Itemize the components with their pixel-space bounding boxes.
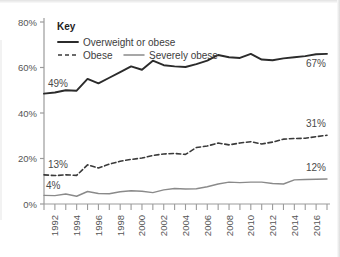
x-tick-label: 2016 xyxy=(311,215,322,236)
x-axis: 1992199419961998200020022004200620082010… xyxy=(44,204,330,236)
y-tick-label: 40% xyxy=(18,108,38,119)
chart-root: 0%20%40%60%80% 1992199419961998200020022… xyxy=(0,0,340,257)
label-overweight-end: 67% xyxy=(306,58,326,69)
plot-area: 0%20%40%60%80% 1992199419961998200020022… xyxy=(0,0,340,257)
y-tick-label: 20% xyxy=(18,153,38,164)
label-obese-end: 31% xyxy=(306,118,326,129)
legend-label-overweight: Overweight or obese xyxy=(83,37,176,48)
legend-label-severely: Severely obese xyxy=(149,50,218,61)
label-severely-start: 4% xyxy=(46,180,61,191)
y-tick-label: 60% xyxy=(18,62,38,73)
y-axis: 0%20%40%60%80% xyxy=(18,17,44,210)
x-tick-label: 2000 xyxy=(136,215,147,236)
series-line-severely-obese xyxy=(44,179,327,196)
x-tick-label: 1996 xyxy=(93,215,104,236)
data-labels: 49%67%13%31%4%12% xyxy=(46,58,326,192)
legend-title: Key xyxy=(57,21,76,32)
x-tick-label: 2004 xyxy=(180,215,191,236)
line-chart-svg: 0%20%40%60%80% 1992199419961998200020022… xyxy=(0,0,340,257)
label-obese-start: 13% xyxy=(48,159,68,170)
x-tick-label: 2006 xyxy=(202,215,213,236)
x-tick-label: 1998 xyxy=(115,215,126,236)
legend: KeyOverweight or obeseObeseSeverely obes… xyxy=(57,21,218,61)
series-lines xyxy=(44,54,327,196)
x-tick-label: 2008 xyxy=(224,215,235,236)
y-tick-label: 0% xyxy=(23,199,37,210)
x-tick-label: 2012 xyxy=(267,215,278,236)
x-tick-label: 2014 xyxy=(289,215,300,236)
x-tick-label: 2002 xyxy=(158,215,169,236)
y-tick-label: 80% xyxy=(18,17,38,28)
label-severely-end: 12% xyxy=(306,162,326,173)
x-tick-label: 1994 xyxy=(71,215,82,236)
legend-label-obese: Obese xyxy=(83,50,113,61)
label-overweight-start: 49% xyxy=(48,78,68,89)
x-tick-label: 1992 xyxy=(49,215,60,236)
x-tick-label: 2010 xyxy=(245,215,256,236)
series-line-obese xyxy=(44,135,327,175)
